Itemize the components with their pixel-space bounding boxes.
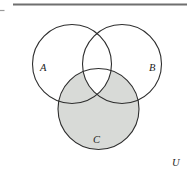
universe-label: U <box>172 157 181 168</box>
set-a-label: A <box>39 62 47 73</box>
set-c-label: C <box>93 134 101 145</box>
set-b-label: B <box>149 62 156 73</box>
venn-diagram-canvas: A B C U <box>0 0 187 173</box>
venn-diagram-figure: A B C U <box>0 0 187 173</box>
